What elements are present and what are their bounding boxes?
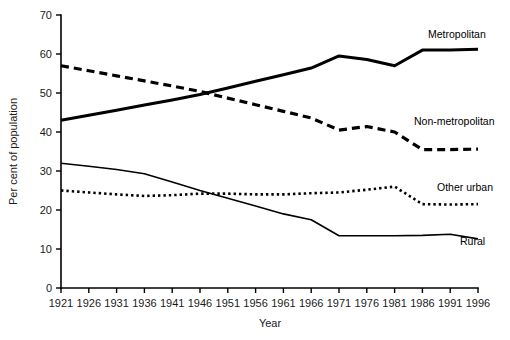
series-label-rural: Rural	[460, 235, 485, 247]
series-label-other-urban: Other urban	[437, 181, 493, 193]
y-tick-label: 60	[40, 48, 52, 60]
series-line-other-urban	[61, 187, 478, 205]
chart-figure: 010203040506070 192119261931193619411946…	[0, 0, 510, 340]
y-tick-label: 70	[40, 9, 52, 21]
series-inline-labels: MetropolitanNon-metropolitanOther urbanR…	[414, 28, 495, 247]
y-axis: 010203040506070	[40, 9, 61, 294]
x-tick-label: 1986	[410, 297, 434, 309]
y-axis-tick-labels: 010203040506070	[40, 9, 52, 294]
line-chart: 010203040506070 192119261931193619411946…	[0, 0, 510, 340]
y-tick-label: 10	[40, 243, 52, 255]
x-tick-label: 1981	[382, 297, 406, 309]
x-tick-label: 1926	[77, 297, 101, 309]
x-tick-label: 1976	[355, 297, 379, 309]
x-tick-label: 1961	[271, 297, 295, 309]
y-tick-label: 50	[40, 87, 52, 99]
x-tick-label: 1991	[438, 297, 462, 309]
y-axis-title: Per cent of population	[7, 98, 19, 205]
y-tick-label: 30	[40, 165, 52, 177]
x-tick-label: 1921	[49, 297, 73, 309]
x-tick-label: 1936	[132, 297, 156, 309]
x-tick-label: 1941	[160, 297, 184, 309]
series-line-rural	[61, 163, 478, 239]
x-tick-label: 1971	[327, 297, 351, 309]
series-label-metropolitan: Metropolitan	[428, 28, 486, 40]
x-tick-label: 1931	[104, 297, 128, 309]
x-axis-tick-labels: 1921192619311936194119461951195619611966…	[49, 297, 490, 309]
y-tick-label: 40	[40, 126, 52, 138]
x-axis-title: Year	[259, 317, 282, 329]
x-axis: 1921192619311936194119461951195619611966…	[49, 288, 490, 309]
x-tick-label: 1996	[466, 297, 490, 309]
x-tick-label: 1946	[188, 297, 212, 309]
x-tick-label: 1951	[216, 297, 240, 309]
y-tick-label: 20	[40, 204, 52, 216]
x-tick-label: 1956	[243, 297, 267, 309]
series-lines	[61, 49, 478, 239]
x-tick-label: 1966	[299, 297, 323, 309]
y-tick-label: 0	[46, 282, 52, 294]
series-label-non-metropolitan: Non-metropolitan	[414, 115, 495, 127]
